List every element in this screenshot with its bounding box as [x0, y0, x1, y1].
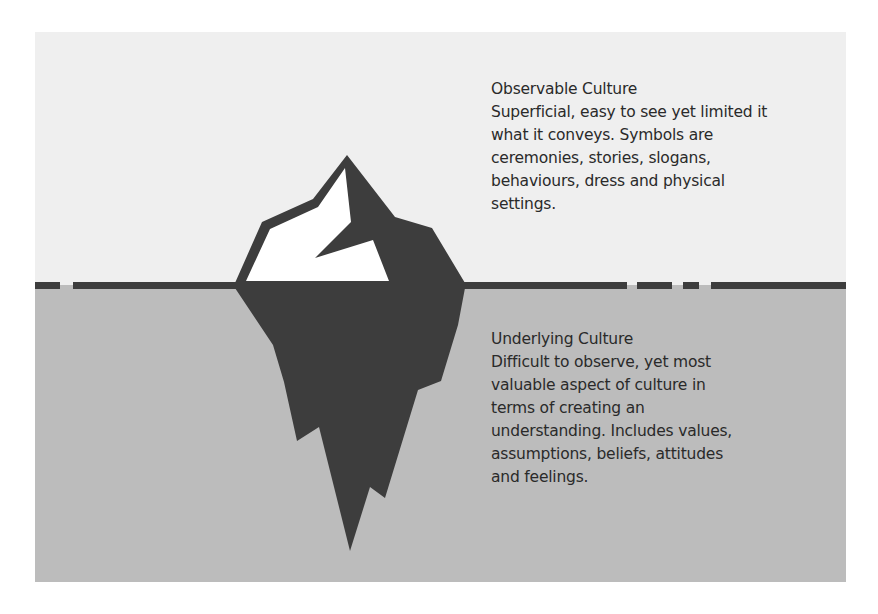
underlying-body-line: understanding. Includes values,: [491, 420, 791, 443]
observable-culture-text: Observable Culture Superficial, easy to …: [491, 78, 831, 216]
iceberg-diagram: Observable Culture Superficial, easy to …: [35, 32, 846, 582]
underlying-body-line: Difficult to observe, yet most: [491, 351, 791, 374]
underlying-body-line: assumptions, beliefs, attitudes: [491, 443, 791, 466]
underlying-body-line: valuable aspect of culture in: [491, 374, 791, 397]
observable-culture-title: Observable Culture: [491, 78, 831, 101]
observable-body-line: settings.: [491, 193, 831, 216]
observable-body-line: Superficial, easy to see yet limited it: [491, 101, 831, 124]
underlying-culture-title: Underlying Culture: [491, 328, 791, 351]
iceberg-base: [235, 288, 465, 551]
observable-body-line: what it conveys. Symbols are: [491, 124, 831, 147]
waterline: [35, 282, 846, 289]
observable-body-line: ceremonies, stories, slogans,: [491, 147, 831, 170]
underlying-body-line: and feelings.: [491, 466, 791, 489]
observable-body-line: behaviours, dress and physical: [491, 170, 831, 193]
underlying-body-line: terms of creating an: [491, 397, 791, 420]
underlying-culture-text: Underlying Culture Difficult to observe,…: [491, 328, 791, 489]
